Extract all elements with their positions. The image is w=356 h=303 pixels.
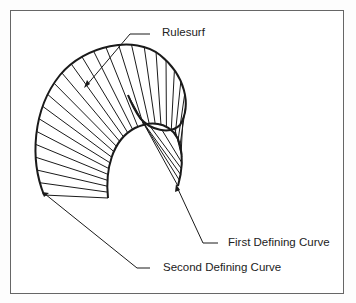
ruling-line (106, 47, 138, 127)
ruling-line (156, 52, 161, 124)
ruling-line (71, 64, 123, 137)
ruling-line (37, 131, 109, 168)
ruling-lines (36, 45, 186, 198)
ruling-line (82, 57, 128, 133)
ruling-line (150, 126, 182, 169)
second-defining-curve-label: Second Defining Curve (163, 261, 281, 273)
second-curve-leader (45, 194, 150, 268)
ruling-line (36, 157, 108, 180)
second-defining-curve (36, 45, 186, 195)
ruling-line (171, 70, 174, 130)
ruling-line (43, 106, 112, 157)
ruling-line (39, 119, 110, 163)
ruling-line (36, 144, 108, 174)
first-defining-curve-label: First Defining Curve (228, 236, 330, 248)
ruling-line (44, 195, 108, 198)
ruling-line (119, 45, 144, 125)
first-curve-leader (177, 187, 218, 243)
rulesurf-label: Rulesurf (162, 26, 205, 38)
ruling-line (144, 47, 155, 124)
rulesurf-diagram (0, 0, 356, 303)
ruling-line (132, 45, 150, 124)
